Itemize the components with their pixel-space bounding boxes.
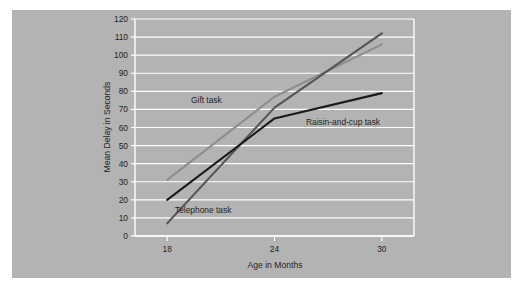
x-axis-title: Age in Months	[248, 260, 303, 270]
series-label-raisin-and-cup-task: Raisin-and-cup task	[306, 117, 381, 127]
x-tick-label: 18	[163, 244, 173, 254]
y-tick-labels: 0102030405060708090100110120	[114, 14, 128, 241]
y-tick-label: 100	[114, 50, 128, 60]
x-tick-labels: 182430	[163, 244, 387, 254]
x-tick-marks	[167, 236, 382, 241]
y-tick-label: 40	[119, 159, 129, 169]
y-tick-label: 120	[114, 14, 128, 24]
series-label-telephone-task: Telephone task	[175, 205, 232, 215]
y-tick-label: 10	[119, 213, 129, 223]
y-tick-label: 50	[119, 141, 129, 151]
line-chart: 0102030405060708090100110120 182430 Age …	[0, 0, 523, 289]
x-tick-label: 30	[377, 244, 387, 254]
y-tick-label: 60	[119, 123, 129, 133]
y-axis-title: Mean Delay in Seconds	[102, 82, 112, 173]
series-label-gift-task: Gift task	[191, 95, 223, 105]
y-tick-label: 20	[119, 195, 129, 205]
chart-figure: 0102030405060708090100110120 182430 Age …	[0, 0, 523, 289]
y-tick-label: 70	[119, 104, 129, 114]
y-tick-label: 80	[119, 86, 129, 96]
y-tick-label: 90	[119, 68, 129, 78]
x-tick-label: 24	[270, 244, 280, 254]
y-tick-label: 110	[115, 32, 129, 42]
y-tick-label: 30	[119, 177, 129, 187]
y-tick-label: 0	[123, 231, 128, 241]
